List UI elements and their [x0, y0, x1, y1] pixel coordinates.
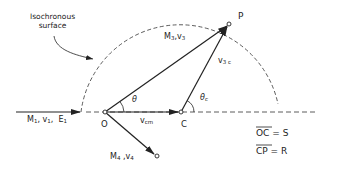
v3c-label: v3 c — [218, 57, 231, 66]
theta-c-angle-arc — [187, 101, 194, 112]
m1-sub: 1 — [34, 118, 38, 124]
kinematics-diagram: Isochronous surface P O C M1, v1, E1 M3,… — [0, 0, 339, 169]
e1-sub: 1 — [63, 118, 67, 124]
vcm-label: vcm — [140, 117, 153, 126]
point-M4-end — [155, 154, 159, 158]
m3-sym: M — [164, 32, 171, 41]
cp-equation: CP = R — [256, 147, 287, 156]
oc-lhs: OC — [256, 128, 269, 138]
oc-eq: = — [272, 128, 280, 138]
label-C: C — [181, 120, 187, 129]
label-P: P — [238, 12, 243, 21]
annotation-line-1: Isochronous — [30, 12, 75, 21]
v3c-sub: 3 c — [223, 59, 231, 65]
v1-sub: 1 — [47, 118, 51, 124]
cp-rhs: R — [281, 146, 287, 156]
vcm-sub: cm — [145, 119, 153, 125]
v3-sub: 3 — [182, 35, 186, 41]
cp-eq: = — [271, 146, 279, 156]
oc-rhs: S — [283, 128, 289, 138]
theta-c-label: θc — [200, 94, 208, 103]
annotation-line-2: surface — [30, 21, 75, 30]
point-O — [103, 110, 107, 114]
m1-sym: M — [27, 115, 34, 124]
m4-sym: M — [110, 152, 117, 161]
cp-lhs: CP — [256, 146, 268, 156]
theta-label: θ — [132, 96, 137, 104]
v4-sub: 4 — [130, 155, 134, 161]
theta-angle-arc — [120, 102, 124, 113]
incident-label: M1, v1, E1 — [27, 116, 67, 125]
recoil-label: M4 ,v4 — [110, 153, 134, 162]
annotation-leader-arrow — [54, 36, 93, 59]
theta-c-sub: c — [205, 96, 208, 102]
point-C — [179, 110, 183, 114]
m4-sub: 4 — [117, 155, 121, 161]
ejectile-label: M3,v3 — [164, 33, 185, 42]
label-O: O — [101, 120, 108, 129]
point-P — [227, 22, 231, 26]
isochronous-surface-label: Isochronous surface — [30, 12, 75, 30]
oc-equation: OC = S — [256, 129, 288, 138]
m3-sub: 3 — [171, 35, 175, 41]
